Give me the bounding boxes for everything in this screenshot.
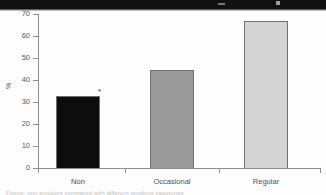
bar-regular[interactable]	[244, 21, 288, 169]
y-tick-50	[33, 58, 38, 59]
scan-artifact-speck	[276, 1, 280, 5]
y-tick-label-40: 40	[4, 76, 30, 84]
y-tick-70	[33, 14, 38, 15]
bar-non[interactable]	[56, 96, 100, 169]
y-tick-label-0: 0	[4, 164, 30, 172]
significance-marker-non: *	[98, 89, 101, 95]
x-tick-end	[320, 168, 321, 173]
y-tick-label-20: 20	[4, 120, 30, 128]
x-tick-non-occasional	[125, 168, 126, 173]
y-tick-label-70: 70	[4, 10, 30, 18]
y-tick-label-30: 30	[4, 98, 30, 106]
bar-occasional[interactable]	[150, 70, 194, 169]
bar-chart: % 70 60 50 40 30 20 10 0 * Non O	[0, 11, 326, 183]
y-tick-60	[33, 36, 38, 37]
scan-artifact-speck	[218, 3, 225, 5]
y-tick-label-60: 60	[4, 32, 30, 40]
y-axis-line	[38, 14, 39, 169]
y-tick-label-10: 10	[4, 142, 30, 150]
y-tick-40	[33, 80, 38, 81]
y-tick-10	[33, 146, 38, 147]
x-tick-occasional-regular	[219, 168, 220, 173]
x-tick-label-occasional: Occasional	[142, 177, 202, 186]
y-tick-20	[33, 124, 38, 125]
scanned-figure-page: % 70 60 50 40 30 20 10 0 * Non O	[0, 0, 326, 195]
x-tick-label-non: Non	[56, 177, 100, 186]
x-tick-start	[38, 168, 39, 173]
x-tick-label-regular: Regular	[240, 177, 292, 186]
x-axis-line	[38, 168, 321, 169]
y-tick-30	[33, 102, 38, 103]
y-tick-label-50: 50	[4, 54, 30, 62]
figure-footnote: Figure: non-smokers compared with differ…	[6, 189, 306, 195]
